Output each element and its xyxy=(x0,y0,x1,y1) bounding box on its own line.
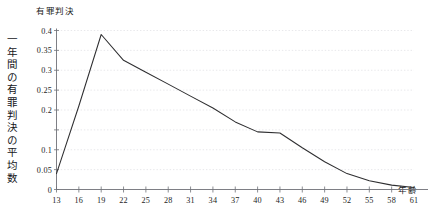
chart-figure: 有罪判決 一年間の有罪判決の平均数 年齢 00.050.10.20.250.30… xyxy=(0,0,434,224)
x-tick-label: 16 xyxy=(75,196,84,205)
x-tick-label: 52 xyxy=(343,196,352,205)
plot-area xyxy=(0,0,434,224)
x-tick-label: 19 xyxy=(97,196,106,205)
tick-marks xyxy=(54,31,414,193)
y-tick-label: 0.35 xyxy=(18,46,52,55)
gridlines xyxy=(58,31,415,170)
x-tick-label: 25 xyxy=(142,196,151,205)
y-tick-label: 0.2 xyxy=(18,106,52,115)
y-tick-label: 0.05 xyxy=(18,165,52,174)
x-tick-label: 61 xyxy=(410,196,419,205)
x-tick-label: 55 xyxy=(365,196,374,205)
x-tick-label: 37 xyxy=(231,196,240,205)
x-tick-label: 58 xyxy=(387,196,396,205)
y-tick-label: 0.1 xyxy=(18,145,52,154)
x-tick-label: 40 xyxy=(253,196,262,205)
x-tick-label: 31 xyxy=(186,196,195,205)
y-tick-label: 0.3 xyxy=(18,66,52,75)
y-tick-label: 0.4 xyxy=(18,26,52,35)
x-tick-label: 46 xyxy=(298,196,307,205)
x-tick-label: 49 xyxy=(320,196,329,205)
x-tick-label: 43 xyxy=(276,196,285,205)
x-tick-label: 28 xyxy=(164,196,173,205)
y-tick-label: 0 xyxy=(18,185,52,194)
x-tick-label: 34 xyxy=(209,196,218,205)
x-tick-label: 22 xyxy=(119,196,128,205)
data-series-line xyxy=(57,34,415,187)
x-tick-label: 13 xyxy=(52,196,61,205)
plot-svg xyxy=(0,0,434,224)
y-tick-label: 0.25 xyxy=(18,86,52,95)
